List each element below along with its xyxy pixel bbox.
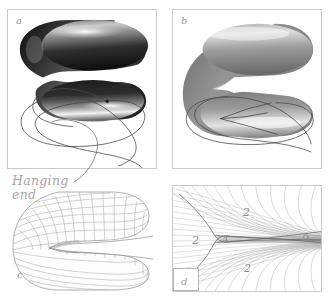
- region-label-4-center: 4: [222, 234, 229, 245]
- panel-b: [172, 9, 322, 169]
- figure-root: 2 2 4 2 0 a b c d Hanging end: [0, 0, 328, 298]
- panel-a-graphic: [8, 10, 156, 168]
- panel-a-lower-lobe: [42, 80, 145, 121]
- hanging-end-annotation: Hanging end: [12, 174, 69, 202]
- panel-b-highlight-top: [207, 27, 290, 41]
- panel-a-free-end-dot: [106, 100, 109, 103]
- panel-a: [7, 9, 157, 169]
- panel-b-highlight-bottom: [234, 117, 301, 129]
- region-label-2-top: 2: [243, 207, 250, 218]
- panel-a-highlight-bottom: [81, 101, 140, 111]
- region-label-2-bottom: 2: [244, 263, 251, 274]
- panel-a-highlight-top: [47, 25, 122, 39]
- panel-label-a: a: [16, 16, 22, 26]
- panel-label-d: d: [181, 277, 188, 287]
- panel-b-graphic: [173, 10, 321, 168]
- region-label-2-left: 2: [192, 235, 199, 246]
- panel-a-highlight-left: [26, 36, 44, 64]
- panel-label-c: c: [17, 270, 23, 280]
- region-label-0-right: 0: [302, 233, 309, 244]
- panel-label-b: b: [181, 16, 188, 26]
